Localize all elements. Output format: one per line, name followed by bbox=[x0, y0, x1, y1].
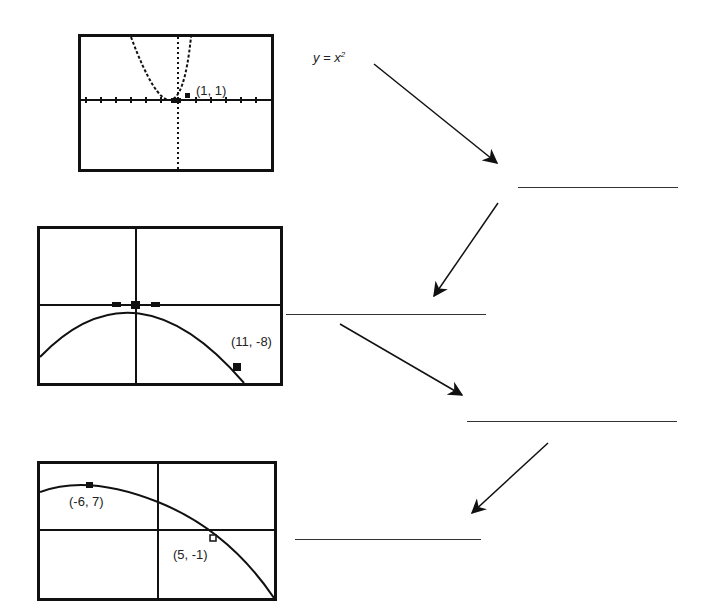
calculator-screen-graph-1: (1, 1) bbox=[78, 34, 274, 172]
arrow-icon bbox=[472, 443, 548, 513]
arrow-icon bbox=[434, 203, 498, 296]
parabola-plot-3 bbox=[40, 464, 274, 598]
equation-label: y = x2 bbox=[313, 50, 345, 65]
parabola-plot-1 bbox=[81, 37, 271, 169]
calculator-screen-graph-2: (11, -8) bbox=[37, 226, 283, 386]
point-label: (5, -1) bbox=[173, 547, 208, 562]
point-label: (11, -8) bbox=[231, 334, 272, 349]
point-label: (-6, 7) bbox=[69, 494, 104, 509]
point-label: (1, 1) bbox=[196, 83, 226, 98]
answer-blank-4[interactable] bbox=[295, 539, 481, 540]
answer-blank-1[interactable] bbox=[518, 187, 678, 188]
equation-exponent: 2 bbox=[341, 50, 345, 59]
arrow-icon bbox=[340, 324, 462, 395]
calculator-screen-graph-3: (-6, 7) (5, -1) bbox=[37, 461, 277, 601]
equation-lhs: y = x bbox=[313, 50, 341, 65]
answer-blank-2[interactable] bbox=[286, 314, 486, 315]
parabola-plot-2 bbox=[40, 229, 280, 383]
answer-blank-3[interactable] bbox=[467, 421, 677, 422]
arrow-icon bbox=[374, 64, 497, 163]
